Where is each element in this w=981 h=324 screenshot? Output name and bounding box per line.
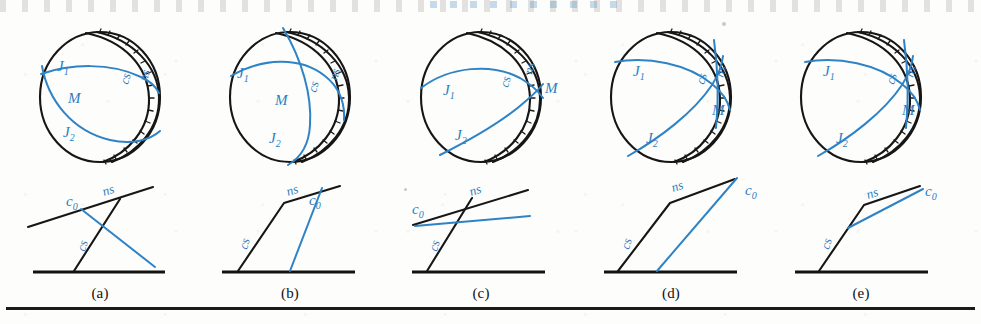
label-ns-sphere: ns xyxy=(711,64,729,79)
label-ns-sphere: ns xyxy=(520,61,538,76)
panel-b: J1 J2 M cs ns c0 cs ns xyxy=(222,28,355,272)
line-c0 xyxy=(415,216,530,226)
panel-c-sphere: J1 J2 M cs ns xyxy=(421,29,559,164)
meridian-hatching xyxy=(480,29,535,164)
label-j1: J1 xyxy=(633,63,645,82)
meridian-hatching xyxy=(99,29,154,164)
meridian-ns xyxy=(847,33,910,162)
label-j2: J2 xyxy=(63,124,75,143)
label-j1: J1 xyxy=(57,58,69,77)
panel-d: J1 J2 M cs ns c0 cs ns xyxy=(604,29,757,272)
label-j1: J1 xyxy=(823,63,835,82)
panel-c: J1 J2 M cs ns c0 cs ns xyxy=(412,29,559,272)
meridian-hatching xyxy=(670,29,725,164)
label-cs-lower: cs xyxy=(617,236,634,251)
label-m: M xyxy=(901,102,916,118)
label-ns-lower: ns xyxy=(467,181,483,199)
label-cs-lower: cs xyxy=(73,238,90,253)
panel-a-sphere: J1 J2 M cs ns xyxy=(40,29,160,164)
label-cs-sphere: cs xyxy=(692,71,709,86)
label-j2: J2 xyxy=(836,130,848,149)
panel-caption-d: (d) xyxy=(641,285,701,302)
panel-b-sphere: J1 J2 M cs ns xyxy=(230,28,350,165)
panel-e-sphere: J1 J2 M cs ns xyxy=(801,29,921,164)
label-j2: J2 xyxy=(455,127,467,146)
label-ns-lower: ns xyxy=(864,184,880,202)
label-m: M xyxy=(711,102,726,118)
label-cs-sphere: cs xyxy=(882,71,899,86)
label-m: M xyxy=(67,90,82,106)
label-c0: c0 xyxy=(925,183,937,202)
panel-d-sphere: J1 J2 M cs ns xyxy=(611,29,731,164)
label-cs-lower: cs xyxy=(425,238,442,253)
label-ns-lower: ns xyxy=(669,177,685,195)
label-m: M xyxy=(274,92,289,108)
label-m: M xyxy=(544,80,559,96)
figure-svg: J1 J2 M cs ns c0 cs ns xyxy=(0,0,981,324)
panel-a-lower: c0 cs ns xyxy=(28,181,165,272)
label-ns-lower: ns xyxy=(100,181,116,199)
label-j2: J2 xyxy=(646,130,658,149)
panel-caption-c: (c) xyxy=(451,285,511,302)
label-cs-lower: cs xyxy=(235,236,252,251)
meridian-ns xyxy=(86,33,149,162)
panel-d-lower: c0 cs ns xyxy=(604,177,757,272)
line-ns xyxy=(28,187,153,227)
line-cs xyxy=(427,198,472,271)
label-c0: c0 xyxy=(412,201,424,220)
panel-e: J1 J2 M cs ns c0 cs ns xyxy=(795,29,937,272)
panel-c-lower: c0 cs ns xyxy=(412,181,545,272)
panel-e-lower: c0 cs ns xyxy=(795,183,937,272)
meridian-ns xyxy=(657,33,720,162)
panel-caption-e: (e) xyxy=(831,285,891,302)
label-j1: J1 xyxy=(443,82,455,101)
panel-a: J1 J2 M cs ns c0 cs ns xyxy=(28,29,165,272)
label-cs-sphere: cs xyxy=(496,74,513,89)
line-c0 xyxy=(848,189,923,228)
panel-caption-b: (b) xyxy=(260,285,320,302)
label-c0: c0 xyxy=(745,182,757,201)
label-cs-lower: cs xyxy=(817,236,834,251)
meridian-ns xyxy=(467,33,530,162)
label-j2: J2 xyxy=(269,130,281,149)
figure-root: J1 J2 M cs ns c0 cs ns xyxy=(0,0,981,324)
meridian-hatching xyxy=(860,29,915,164)
panel-caption-a: (a) xyxy=(70,285,130,302)
bottom-horizontal-rule xyxy=(6,307,975,310)
line-c0 xyxy=(81,209,155,267)
meridian-hatching xyxy=(289,29,344,164)
label-ns-lower: ns xyxy=(284,181,300,199)
label-c0: c0 xyxy=(66,193,78,212)
panel-b-lower: c0 cs ns xyxy=(222,181,355,272)
label-ns-sphere: ns xyxy=(901,64,919,79)
